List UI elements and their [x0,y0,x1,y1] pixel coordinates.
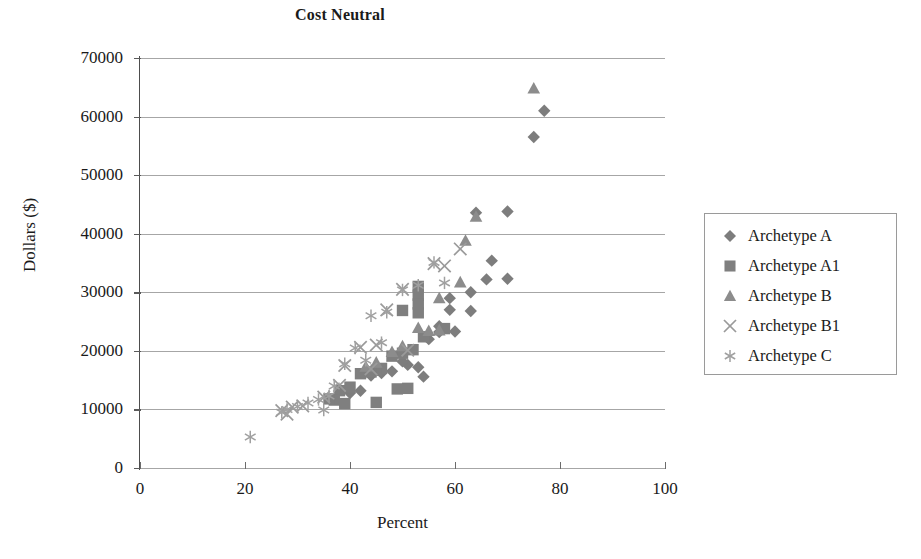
data-point [402,383,413,394]
data-points-layer [140,58,665,468]
data-point [538,105,550,117]
data-point [318,404,329,416]
x-tick-label: 60 [425,479,485,499]
legend-item[interactable]: Archetype B [705,281,896,311]
y-tick-label: 30000 [38,283,123,300]
data-point [354,384,366,396]
y-tick-label: 20000 [38,342,123,359]
triangle-icon [719,285,741,307]
data-point [386,365,398,377]
data-point [444,292,456,304]
x-tick-label: 40 [320,479,380,499]
data-point [397,305,408,316]
series-asterisk [245,256,450,443]
x-icon [719,315,741,337]
data-point [392,383,403,394]
square-icon [719,255,741,277]
y-tick-label: 40000 [38,225,123,242]
data-point [527,82,540,94]
x-tick-mark [665,462,666,469]
data-point [501,205,513,217]
legend-item[interactable]: Archetype B1 [705,311,896,341]
data-point [465,305,477,317]
data-point [381,306,392,318]
data-point [486,254,498,266]
x-axis-title: Percent [140,513,665,533]
data-point [245,431,256,443]
data-point [366,310,377,322]
x-tick-label: 80 [530,479,590,499]
diamond-icon [719,225,741,247]
data-point [438,260,450,272]
data-point [454,276,467,288]
data-point [413,307,424,318]
legend-label: Archetype A1 [748,256,840,276]
asterisk-icon [719,345,741,367]
data-point [449,325,461,337]
data-point [339,398,350,409]
legend-item[interactable]: Archetype A1 [705,251,896,281]
legend-item[interactable]: Archetype C [705,341,896,371]
data-point [360,354,371,366]
legend-label: Archetype B1 [748,316,840,336]
data-point [433,292,446,304]
y-tick-label: 70000 [38,49,123,66]
chart-title: Cost Neutral [0,6,680,24]
y-tick-label: 0 [38,459,123,476]
legend-item[interactable]: Archetype A [705,221,896,251]
x-tick-label: 0 [110,479,170,499]
data-point [480,273,492,285]
y-tick-label: 60000 [38,108,123,125]
data-point [528,131,540,143]
x-tick-label: 20 [215,479,275,499]
y-tick-label: 50000 [38,166,123,183]
data-point [371,397,382,408]
legend-label: Archetype B [748,286,832,306]
data-point [370,356,383,368]
series-diamond [344,105,551,400]
y-axis-title: Dollars ($) [20,145,40,325]
data-point [412,322,425,334]
data-point [501,273,513,285]
data-point [439,277,450,289]
plot-area [140,58,665,468]
y-tick-label: 10000 [38,400,123,417]
gridline [140,468,665,469]
data-point [465,286,477,298]
x-tick-label: 100 [635,479,695,499]
chart-legend: Archetype AArchetype A1Archetype BArchet… [704,213,897,375]
data-point [444,304,456,316]
scatter-chart: Cost Neutral 010000200003000040000500006… [0,0,921,559]
legend-label: Archetype C [748,346,832,366]
legend-label: Archetype A [748,226,832,246]
